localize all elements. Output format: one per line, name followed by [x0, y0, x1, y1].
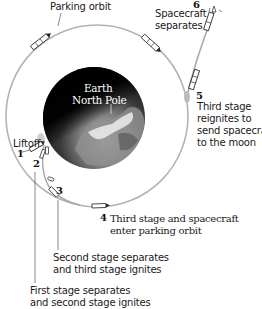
step-6-label-line2: separates	[155, 20, 203, 32]
second-stage-debris-icon	[47, 177, 54, 182]
rocket-icon-parking-topright	[141, 34, 162, 54]
step-3-label-line2: and third stage ignites	[53, 264, 161, 276]
rocket-icon-parking-topleft	[30, 31, 52, 50]
step-2-label-line1: First stage separates	[30, 285, 130, 297]
step-5-label-line2: reignites to	[197, 113, 251, 125]
rocket-icon-reignite	[189, 69, 200, 90]
step-5-label-line1: Third stage	[197, 101, 251, 113]
step-4-number: 4	[100, 212, 107, 223]
orbit-label-leader	[58, 13, 61, 26]
step-2-number: 2	[33, 158, 40, 169]
step-5-number: 5	[196, 90, 203, 101]
step-3-number: 3	[56, 185, 63, 196]
step-4-label-line2: enter parking orbit	[110, 225, 201, 237]
spacecraft-icon	[209, 6, 222, 12]
step-3-label-line1: Second stage separates	[53, 252, 169, 264]
step-1-number: 1	[17, 148, 24, 159]
step-4-label-line1: Third stage and spacecraft	[110, 213, 239, 225]
parking-orbit-label: Parking orbit	[50, 1, 111, 13]
step-5-label-line3: send spacecraft	[197, 125, 262, 137]
earth-label-line1: Earth	[84, 82, 112, 94]
rocket-icon-parking-bottom	[92, 203, 110, 208]
earth-label-line2: North Pole	[72, 94, 126, 106]
rocket-icon-stage2	[40, 149, 46, 158]
step-2-label-line2: and second stage ignites	[30, 297, 151, 309]
earth-globe	[40, 60, 150, 175]
step-6-label-line1: Spacecraft	[155, 8, 206, 20]
first-stage-debris-icon	[46, 147, 49, 154]
step-5-label-line4: to the moon	[197, 137, 256, 149]
